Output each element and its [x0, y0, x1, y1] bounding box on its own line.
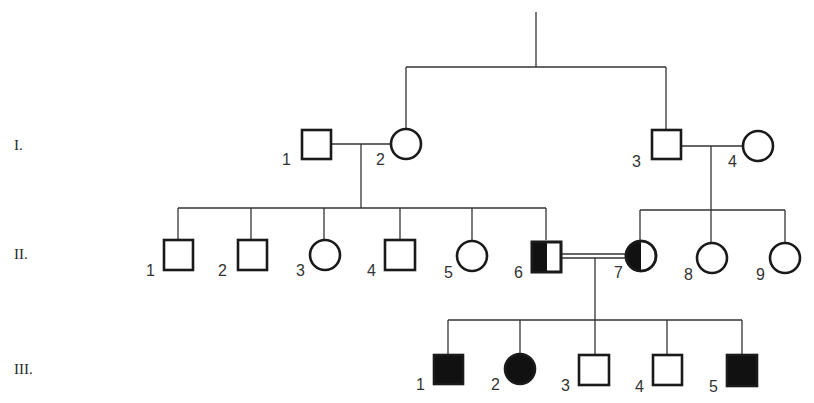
pedigree-diagram: I. II. III. [0, 0, 814, 403]
female-affected-icon [505, 354, 535, 384]
individual-number: 4 [367, 262, 376, 279]
individual-i-2[interactable]: 2 [376, 129, 421, 168]
individual-number: 3 [296, 262, 305, 279]
individual-number: 5 [444, 264, 453, 281]
individual-i-3[interactable]: 3 [632, 130, 681, 170]
individual-number: 1 [146, 262, 155, 279]
individual-iii-3[interactable]: 3 [561, 355, 609, 394]
male-unaffected-icon [302, 130, 331, 159]
individual-number: 2 [218, 262, 227, 279]
individual-ii-3[interactable]: 3 [296, 240, 340, 279]
individual-ii-1[interactable]: 1 [146, 240, 193, 279]
generation-label-ii: II. [14, 246, 28, 262]
individual-number: 9 [756, 266, 765, 283]
individual-iii-5[interactable]: 5 [709, 355, 757, 395]
male-carrier-icon [532, 242, 561, 272]
male-affected-icon [727, 355, 757, 386]
individual-number: 3 [561, 377, 570, 394]
male-unaffected-icon [385, 240, 415, 270]
individual-i-4[interactable]: 4 [728, 131, 773, 170]
individual-number: 4 [635, 378, 644, 395]
individual-ii-6[interactable]: 6 [514, 242, 561, 281]
individual-number: 8 [684, 266, 693, 283]
generation-label-i: I. [14, 137, 23, 153]
male-unaffected-icon [652, 130, 681, 159]
female-unaffected-icon [770, 243, 800, 273]
individual-ii-4[interactable]: 4 [367, 240, 415, 279]
individual-number: 2 [376, 151, 385, 168]
individual-i-1[interactable]: 1 [282, 130, 331, 168]
individual-ii-9[interactable]: 9 [756, 243, 800, 283]
individual-iii-1[interactable]: 1 [416, 355, 463, 393]
female-carrier-icon [626, 241, 656, 271]
female-unaffected-icon [697, 243, 727, 273]
individual-number: 3 [632, 153, 641, 170]
female-unaffected-icon [457, 241, 487, 271]
individual-ii-8[interactable]: 8 [684, 243, 727, 283]
individual-number: 4 [728, 153, 737, 170]
individual-ii-5[interactable]: 5 [444, 241, 487, 281]
connector-lines [178, 12, 785, 355]
generation-label-iii: III. [14, 361, 33, 377]
individual-number: 1 [282, 151, 291, 168]
individual-number: 2 [491, 376, 500, 393]
male-affected-icon [434, 355, 463, 384]
individual-iii-4[interactable]: 4 [635, 355, 682, 395]
female-unaffected-icon [310, 240, 340, 270]
individual-number: 1 [416, 376, 425, 393]
male-unaffected-icon [238, 240, 267, 270]
individual-ii-7[interactable]: 7 [614, 241, 656, 281]
individual-iii-2[interactable]: 2 [491, 354, 535, 393]
male-unaffected-icon [164, 240, 193, 270]
individual-number: 6 [514, 264, 523, 281]
female-unaffected-icon [743, 131, 773, 161]
individual-number: 5 [709, 378, 718, 395]
individual-ii-2[interactable]: 2 [218, 240, 267, 279]
female-unaffected-icon [391, 129, 421, 159]
individual-number: 7 [614, 264, 623, 281]
male-unaffected-icon [653, 355, 682, 385]
male-unaffected-icon [579, 355, 609, 385]
